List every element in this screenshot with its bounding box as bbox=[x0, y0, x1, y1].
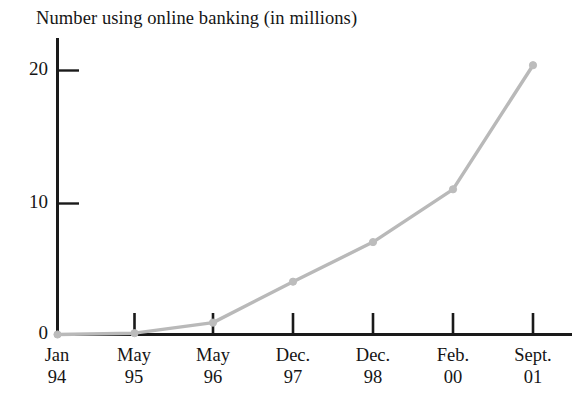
data-point-markers bbox=[54, 62, 537, 338]
x-tick-label-month: Jan bbox=[14, 345, 100, 367]
data-point-dec-98 bbox=[369, 239, 376, 246]
x-tick-label-year: 97 bbox=[250, 367, 336, 389]
x-tick-label-month: May bbox=[170, 345, 256, 367]
x-tick-label-month: Dec. bbox=[330, 345, 416, 367]
data-point-dec-97 bbox=[289, 278, 296, 285]
x-tick-label-year: 00 bbox=[410, 367, 496, 389]
data-point-sept-01 bbox=[529, 62, 536, 69]
chart-figure: Number using online banking (in millions… bbox=[0, 0, 587, 412]
data-point-may-95 bbox=[131, 330, 138, 337]
x-axis-ticks bbox=[58, 313, 534, 334]
y-tick-label-20: 20 bbox=[2, 58, 48, 80]
x-tick-label-year: 96 bbox=[170, 367, 256, 389]
x-tick-label-year: 01 bbox=[490, 367, 576, 389]
x-tick-label-month: Feb. bbox=[410, 345, 496, 367]
x-tick-label-dec-98: Dec. 98 bbox=[330, 345, 416, 389]
y-tick-label-0: 0 bbox=[2, 322, 48, 344]
x-tick-label-year: 94 bbox=[14, 367, 100, 389]
x-tick-label-month: Sept. bbox=[490, 345, 576, 367]
data-point-jan-94 bbox=[54, 331, 61, 338]
x-tick-label-may-96: May 96 bbox=[170, 345, 256, 389]
x-tick-label-year: 98 bbox=[330, 367, 416, 389]
x-tick-label-may-95: May 95 bbox=[91, 345, 177, 389]
x-tick-label-month: Dec. bbox=[250, 345, 336, 367]
data-series-line bbox=[58, 65, 534, 334]
x-tick-label-jan-94: Jan 94 bbox=[14, 345, 100, 389]
x-tick-label-feb-00: Feb. 00 bbox=[410, 345, 496, 389]
data-point-feb-00 bbox=[449, 186, 456, 193]
x-tick-label-sept-01: Sept. 01 bbox=[490, 345, 576, 389]
x-tick-label-dec-97: Dec. 97 bbox=[250, 345, 336, 389]
data-point-may-96 bbox=[209, 319, 216, 326]
y-axis-ticks bbox=[58, 71, 79, 204]
x-tick-label-year: 95 bbox=[91, 367, 177, 389]
y-tick-label-10: 10 bbox=[2, 191, 48, 213]
x-tick-label-month: May bbox=[91, 345, 177, 367]
